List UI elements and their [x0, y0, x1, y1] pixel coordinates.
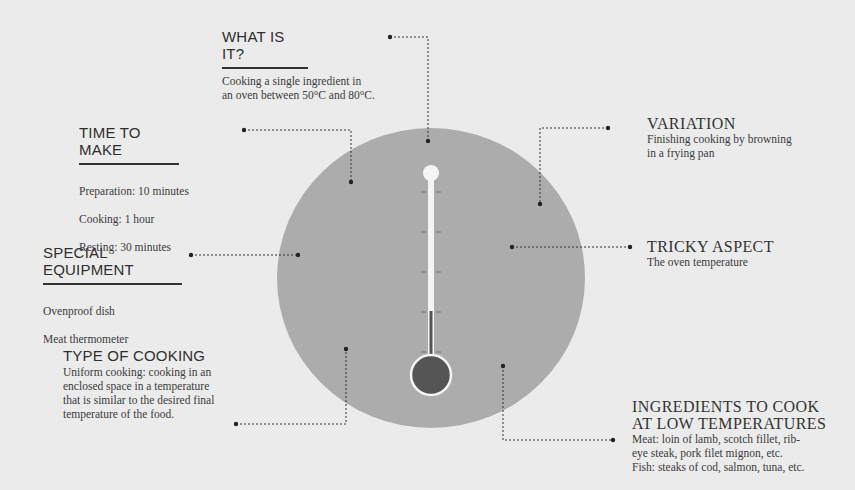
equipment-item: Meat thermometer	[43, 332, 203, 346]
section-what-is-it: WHAT IS IT? Cooking a single ingredient …	[222, 28, 422, 102]
time-to-make-title: TIME TO MAKE	[79, 124, 179, 165]
time-to-make-cooking: Cooking: 1 hour	[79, 212, 239, 226]
what-is-it-body: Cooking a single ingredient in an oven b…	[222, 74, 422, 102]
ingredients-title-line2: AT LOW TEMPERATURES	[632, 415, 852, 432]
variation-title: VARIATION	[647, 115, 847, 132]
section-variation: VARIATION Finishing cooking by browning …	[647, 115, 847, 160]
type-of-cooking-title: TYPE OF COOKING	[63, 347, 205, 364]
type-of-cooking-body: Uniform cooking: cooking in an enclosed …	[63, 365, 283, 421]
section-special-equipment: SPECIAL EQUIPMENT Ovenproof dish Meat th…	[43, 244, 203, 360]
special-equipment-title: SPECIAL EQUIPMENT	[43, 244, 182, 285]
what-is-it-title: WHAT IS IT?	[222, 28, 308, 69]
tricky-aspect-body: The oven temperature	[647, 255, 847, 269]
equipment-item: Ovenproof dish	[43, 304, 203, 318]
ingredients-body: Meat: loin of lamb, scotch fillet, rib- …	[632, 432, 852, 474]
section-ingredients: INGREDIENTS TO COOK AT LOW TEMPERATURES …	[632, 398, 852, 474]
thermometer-icon	[411, 165, 451, 395]
ingredients-title-line1: INGREDIENTS TO COOK	[632, 398, 852, 415]
section-tricky-aspect: TRICKY ASPECT The oven temperature	[647, 238, 847, 269]
time-to-make-preparation: Preparation: 10 minutes	[79, 184, 239, 198]
tricky-aspect-title: TRICKY ASPECT	[647, 238, 847, 255]
section-type-of-cooking: TYPE OF COOKING Uniform cooking: cooking…	[63, 347, 283, 421]
variation-body: Finishing cooking by browning in a fryin…	[647, 132, 847, 160]
